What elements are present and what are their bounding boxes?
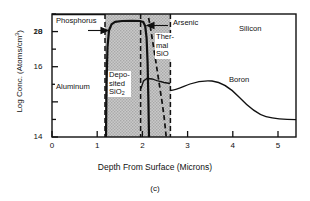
label-phosphorus: Phosphorus xyxy=(55,17,98,26)
label-arsenic: Arsenic xyxy=(172,19,199,28)
y-tick-16: 16 xyxy=(28,62,48,71)
label-deposited-subscript: 2 xyxy=(122,90,125,96)
x-tick-2: 2 xyxy=(134,141,150,150)
y-axis-ticks xyxy=(52,14,58,137)
label-thermal-line3: SiO xyxy=(156,50,174,59)
x-tick-5: 5 xyxy=(270,141,286,150)
y-axis-label-exponent: 3 xyxy=(14,33,20,36)
x-tick-3: 3 xyxy=(180,141,196,150)
label-deposited-line3: SiO2 xyxy=(109,88,130,97)
x-axis-label: Depth From Surface (Microns) xyxy=(0,162,310,172)
x-tick-1: 1 xyxy=(89,141,105,150)
x-tick-4: 4 xyxy=(225,141,241,150)
doping-profile-figure: Log Conc. (Atoms/cm3) 14 16 18 0 1 2 3 4… xyxy=(0,0,310,201)
label-thermal-sio: Ther- mal SiO xyxy=(155,33,175,59)
label-boron: Boron xyxy=(228,76,250,85)
label-deposited-sio2: Depo- sited SiO2 xyxy=(108,71,131,97)
y-axis-label: Log Conc. (Atoms/cm3) xyxy=(14,21,25,121)
y-tick-14: 14 xyxy=(28,132,48,141)
figure-caption: (c) xyxy=(0,184,310,193)
label-silicon: Silicon xyxy=(238,25,262,34)
label-aluminum: Aluminum xyxy=(55,83,91,92)
y-tick-20: 20 xyxy=(28,27,48,36)
x-tick-0: 0 xyxy=(44,141,60,150)
curve-boron-silicon xyxy=(170,81,296,120)
